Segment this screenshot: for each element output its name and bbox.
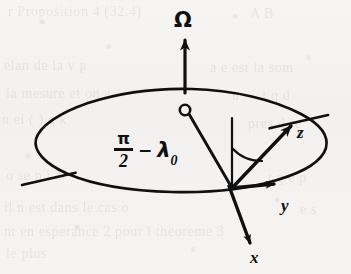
- earth-ellipse: [36, 89, 327, 192]
- y-axis-label: y: [281, 197, 289, 214]
- minus-operator: −: [138, 142, 152, 159]
- lambda-subscript: 0: [171, 154, 178, 170]
- x-axis-label: x: [250, 249, 259, 266]
- omega-label: Ω: [174, 10, 192, 31]
- fraction-numerator: π: [115, 131, 132, 148]
- fraction-denominator: 2: [117, 151, 130, 170]
- y-axis-arrow: [232, 184, 274, 188]
- x-axis-arrow: [229, 186, 250, 243]
- pi-over-two-fraction: π 2: [114, 131, 133, 170]
- colatitude-angle-label: π 2 − λ 0: [114, 131, 178, 170]
- z-axis-label: z: [297, 124, 304, 141]
- figure-page: r Proposition 4 (32.4) A B elan de la v …: [0, 0, 351, 274]
- radius-line: [189, 114, 232, 188]
- lambda-symbol: λ: [157, 140, 170, 161]
